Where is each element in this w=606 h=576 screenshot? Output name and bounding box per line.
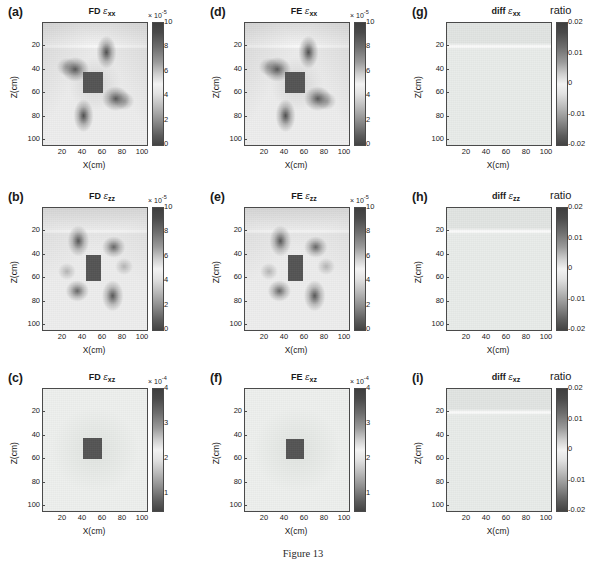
y-axis-label: Z(cm) <box>10 423 19 483</box>
colorbar <box>556 22 568 146</box>
panel-tag: (i) <box>412 372 423 385</box>
colorbar <box>354 22 366 146</box>
panel-h: (h)diff εzz20406080100Z(cm)20406080100X(… <box>404 185 606 365</box>
y-tick-mark <box>42 435 45 436</box>
y-axis-label: Z(cm) <box>414 57 423 117</box>
colorbar-tick-label: 0.01 <box>568 49 583 57</box>
colorbar-tick-label: 8 <box>164 43 168 51</box>
field-noise-texture <box>447 208 551 330</box>
y-tick-mark <box>244 324 247 325</box>
colorbar-tick-label: 10 <box>164 18 172 26</box>
panel-i: (i)diff εxz20406080100Z(cm)20406080100X(… <box>404 366 606 546</box>
colorbar <box>354 388 366 512</box>
y-tick-label: 20 <box>418 227 444 235</box>
x-tick-label: 100 <box>129 148 155 156</box>
colorbar-tick-label: -0.02 <box>568 140 585 148</box>
colorbar-tick-label: 10 <box>366 203 374 211</box>
x-axis-label: X(cm) <box>244 527 348 536</box>
colorbar-tick-label: 1 <box>366 489 370 497</box>
panel-tag: (d) <box>210 6 225 19</box>
y-tick-mark <box>42 301 45 302</box>
x-axis-label: X(cm) <box>446 527 550 536</box>
y-tick-mark <box>42 116 45 117</box>
heatmap-field <box>245 389 349 511</box>
panel-tag: (c) <box>8 372 23 385</box>
colorbar-tick-label: 0 <box>568 445 572 453</box>
colorbar-tick-label: 2 <box>164 301 168 309</box>
field-noise-texture <box>245 208 349 330</box>
colorbar-tick-label: 6 <box>164 67 168 75</box>
heatmap-field <box>245 208 349 330</box>
y-tick-mark <box>446 92 449 93</box>
y-tick-mark <box>42 411 45 412</box>
colorbar-tick-label: 3 <box>366 419 370 427</box>
x-tick-label: 100 <box>331 514 357 522</box>
panel-title: diff εxx <box>450 7 562 17</box>
y-tick-mark <box>244 277 247 278</box>
x-axis-label: X(cm) <box>244 161 348 170</box>
x-axis-ticks: 20406080100 <box>244 333 348 345</box>
colorbar-tick-label: 3 <box>164 419 168 427</box>
y-tick-label: 20 <box>216 42 242 50</box>
x-tick-label: 100 <box>533 148 559 156</box>
colorbar-tick-label: -0.01 <box>568 110 585 118</box>
colorbar-tick-label: 0 <box>568 264 572 272</box>
colorbar-tick-label: 8 <box>366 228 370 236</box>
y-tick-mark <box>244 458 247 459</box>
plot-area <box>42 207 148 331</box>
y-tick-label: 100 <box>14 136 40 144</box>
y-tick-mark <box>42 139 45 140</box>
colorbar-tick-label: 0 <box>366 325 370 333</box>
panel-tag: (b) <box>8 191 23 204</box>
x-tick-label: 100 <box>331 148 357 156</box>
y-tick-mark <box>42 482 45 483</box>
panel-g: (g)diff εxx20406080100Z(cm)20406080100X(… <box>404 0 606 180</box>
y-tick-mark <box>446 139 449 140</box>
y-tick-label: 100 <box>216 321 242 329</box>
x-axis-ticks: 20406080100 <box>446 148 550 160</box>
y-tick-label: 20 <box>14 42 40 50</box>
heatmap-field <box>245 23 349 145</box>
colorbar-tick-label: -0.02 <box>568 506 585 514</box>
field-noise-texture <box>43 389 147 511</box>
field-noise-texture <box>447 389 551 511</box>
x-tick-label: 100 <box>331 333 357 341</box>
panel-tag: (f) <box>210 372 222 385</box>
colorbar-ticks: 0.020.010-0.01-0.02 <box>568 388 602 510</box>
y-tick-mark <box>446 277 449 278</box>
colorbar-tick-label: 6 <box>366 67 370 75</box>
x-tick-label: 100 <box>129 333 155 341</box>
colorbar-unit-label: ratio <box>550 5 571 16</box>
y-tick-mark <box>446 230 449 231</box>
field-noise-texture <box>43 23 147 145</box>
y-tick-mark <box>42 69 45 70</box>
y-tick-mark <box>446 482 449 483</box>
x-axis-label: X(cm) <box>42 161 146 170</box>
x-axis-ticks: 20406080100 <box>42 148 146 160</box>
y-axis-label: Z(cm) <box>10 57 19 117</box>
y-tick-label: 20 <box>216 408 242 416</box>
y-tick-mark <box>42 45 45 46</box>
y-tick-mark <box>42 458 45 459</box>
plot-area <box>244 22 350 146</box>
colorbar-tick-label: -0.02 <box>568 325 585 333</box>
panel-title: FE εxz <box>248 373 360 383</box>
field-noise-texture <box>43 208 147 330</box>
x-axis-ticks: 20406080100 <box>42 333 146 345</box>
colorbar-ticks: 0.020.010-0.01-0.02 <box>568 207 602 329</box>
y-tick-mark <box>42 505 45 506</box>
y-tick-label: 20 <box>418 408 444 416</box>
colorbar <box>556 207 568 331</box>
y-tick-label: 100 <box>418 136 444 144</box>
y-tick-label: 100 <box>14 502 40 510</box>
panel-title: diff εzz <box>450 192 562 202</box>
colorbar-tick-label: 0 <box>366 140 370 148</box>
colorbar-tick-label: 0.02 <box>568 384 583 392</box>
colorbar-tick-label: 2 <box>164 116 168 124</box>
y-tick-mark <box>244 482 247 483</box>
y-tick-label: 100 <box>14 321 40 329</box>
y-tick-label: 100 <box>418 321 444 329</box>
colorbar-ticks: 1086420 <box>164 22 198 144</box>
colorbar-tick-label: 2 <box>366 116 370 124</box>
panel-title: FE εzz <box>248 192 360 202</box>
